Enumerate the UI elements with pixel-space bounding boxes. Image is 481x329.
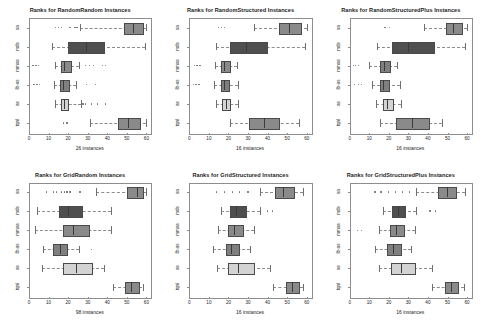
box bbox=[249, 118, 280, 130]
x-tick-label: 50 bbox=[445, 300, 450, 305]
x-tick-mark bbox=[448, 297, 449, 299]
x-tick-mark bbox=[88, 297, 89, 299]
whisker-cap bbox=[146, 24, 147, 32]
y-tick-mark bbox=[187, 85, 189, 86]
y-tick-label: as bbox=[175, 95, 180, 111]
x-tick-mark bbox=[307, 297, 308, 299]
whisker-cap bbox=[143, 284, 144, 292]
whisker-cap bbox=[214, 81, 215, 89]
outlier-point bbox=[361, 230, 362, 231]
y-tick-label: mds bbox=[15, 38, 20, 54]
y-tick-label: lb-as bbox=[15, 76, 20, 92]
y-tick-label: mmas bbox=[175, 57, 180, 73]
outlier-point bbox=[53, 191, 54, 192]
y-tick-label: mds bbox=[335, 38, 340, 54]
whisker-cap bbox=[96, 188, 97, 196]
y-tick-label: sa bbox=[175, 19, 180, 35]
y-tick-label: tqnl bbox=[15, 114, 20, 130]
x-tick-label: 10 bbox=[46, 300, 51, 305]
x-tick-label: 50 bbox=[285, 136, 290, 141]
whisker-cap bbox=[260, 207, 261, 215]
x-tick-label: 0 bbox=[348, 136, 351, 141]
y-tick-mark bbox=[348, 85, 350, 86]
median-line bbox=[396, 225, 397, 235]
whisker-cap bbox=[375, 246, 376, 254]
y-tick-mark bbox=[27, 123, 29, 124]
whisker-cap bbox=[213, 246, 214, 254]
boxplot-panel: Ranks for RandomRandom Instances01020304… bbox=[0, 0, 160, 165]
whisker-cap bbox=[113, 284, 114, 292]
box bbox=[380, 61, 391, 73]
whisker-cap bbox=[383, 207, 384, 215]
median-line bbox=[231, 244, 232, 254]
x-axis-label: 26 instances bbox=[29, 145, 150, 151]
whisker-cap bbox=[432, 284, 433, 292]
whisker-cap bbox=[305, 43, 306, 51]
whisker-cap bbox=[424, 24, 425, 32]
x-tick-mark bbox=[49, 297, 50, 299]
x-axis-label: 98 instances bbox=[29, 309, 150, 315]
y-tick-label: as bbox=[175, 260, 180, 276]
x-tick-mark bbox=[287, 297, 288, 299]
x-tick-label: 50 bbox=[124, 136, 129, 141]
x-tick-label: 50 bbox=[124, 300, 129, 305]
x-tick-mark bbox=[287, 133, 288, 135]
y-tick-label: tqnl bbox=[15, 279, 20, 295]
whisker-cap bbox=[216, 43, 217, 51]
median-line bbox=[64, 61, 65, 71]
whisker-cap bbox=[218, 226, 219, 234]
x-tick-mark bbox=[146, 297, 147, 299]
box bbox=[221, 61, 232, 73]
x-tick-mark bbox=[248, 297, 249, 299]
outlier-point bbox=[429, 210, 430, 211]
whisker-cap bbox=[250, 246, 251, 254]
x-tick-mark bbox=[389, 297, 390, 299]
whisker-cap bbox=[260, 188, 261, 196]
x-tick-mark bbox=[228, 133, 229, 135]
box bbox=[390, 225, 406, 237]
x-axis-label: 16 instances bbox=[350, 145, 471, 151]
whisker-cap bbox=[80, 24, 81, 32]
box bbox=[383, 99, 394, 111]
y-tick-mark bbox=[348, 47, 350, 48]
panel-title: Ranks for GridRandom Instances bbox=[0, 172, 160, 178]
x-tick-mark bbox=[29, 133, 30, 135]
x-tick-mark bbox=[350, 297, 351, 299]
y-tick-mark bbox=[187, 249, 189, 250]
median-line bbox=[387, 99, 388, 109]
whisker-cap bbox=[104, 265, 105, 273]
whisker-cap bbox=[90, 119, 91, 127]
x-tick-label: 50 bbox=[445, 136, 450, 141]
whisker-cap bbox=[465, 43, 466, 51]
x-tick-label: 20 bbox=[226, 300, 231, 305]
x-tick-mark bbox=[189, 297, 190, 299]
x-tick-label: 40 bbox=[425, 136, 430, 141]
median-line bbox=[224, 80, 225, 90]
outlier-point bbox=[63, 122, 64, 123]
whisker-cap bbox=[397, 62, 398, 70]
x-axis-label: 16 instances bbox=[189, 309, 310, 315]
x-tick-label: 30 bbox=[85, 300, 90, 305]
median-line bbox=[76, 263, 77, 273]
x-tick-mark bbox=[369, 133, 370, 135]
y-tick-label: lb-as bbox=[175, 241, 180, 257]
y-tick-label: sa bbox=[335, 19, 340, 35]
y-tick-label: as bbox=[335, 260, 340, 276]
y-tick-label: mmas bbox=[335, 57, 340, 73]
x-tick-label: 30 bbox=[85, 136, 90, 141]
whisker-cap bbox=[52, 43, 53, 51]
y-tick-mark bbox=[27, 249, 29, 250]
x-tick-label: 20 bbox=[66, 300, 71, 305]
y-tick-label: as bbox=[15, 260, 20, 276]
outlier-point bbox=[64, 191, 65, 192]
x-tick-mark bbox=[369, 297, 370, 299]
x-tick-mark bbox=[209, 297, 210, 299]
box bbox=[387, 244, 402, 256]
outlier-point bbox=[79, 191, 80, 192]
whisker-cap bbox=[380, 119, 381, 127]
x-tick-mark bbox=[228, 297, 229, 299]
x-tick-label: 40 bbox=[425, 300, 430, 305]
box bbox=[392, 42, 435, 54]
box bbox=[446, 23, 464, 35]
box bbox=[279, 23, 302, 35]
